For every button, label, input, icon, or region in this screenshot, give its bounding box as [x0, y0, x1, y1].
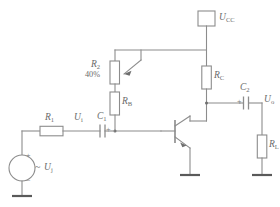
junction-collector-node — [205, 102, 208, 105]
label-ui: Ui — [74, 113, 83, 123]
resistor-rc-body — [202, 66, 212, 89]
label-uo: Uo — [264, 95, 274, 105]
transistor-collector-lead — [175, 116, 190, 126]
vcc-terminal-box — [198, 11, 215, 26]
wire-wiper-arm — [124, 60, 141, 74]
source-minus-sign: _ — [26, 174, 30, 182]
label-r2: R2 — [91, 60, 100, 70]
source-plus-sign: + — [26, 152, 31, 160]
label-r1: R1 — [45, 113, 54, 123]
potentiometer-r2-body — [110, 61, 120, 84]
capacitor-c1-plus-sign: + — [106, 126, 111, 134]
ac-source-circle — [9, 155, 35, 181]
label-r2-value: 40% — [85, 71, 100, 79]
label-rc: RC — [214, 71, 224, 81]
label-vcc: UCC — [219, 13, 235, 23]
resistor-rb-body — [110, 92, 120, 115]
label-uj: Uj — [44, 163, 53, 173]
label-c1: C1 — [97, 112, 107, 122]
label-c2: C2 — [240, 83, 250, 93]
label-rl: RL — [269, 140, 279, 150]
ac-source-symbol: ~ — [35, 162, 40, 172]
label-rb: RB — [122, 97, 132, 107]
resistor-rl-body — [257, 135, 267, 158]
capacitor-c2-plus-sign: + — [237, 98, 242, 106]
circuit-diagram: UCC R2 40% RB RC R1 Ui C1 + C2 + Uo RL +… — [0, 0, 280, 207]
resistor-r1-body — [40, 126, 63, 136]
